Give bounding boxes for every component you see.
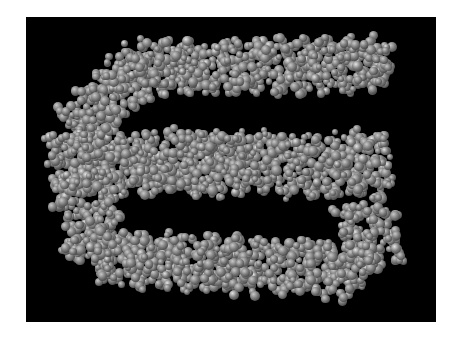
atom-sphere xyxy=(284,153,290,159)
dna-space-filling-model xyxy=(26,17,436,322)
atom-sphere xyxy=(270,277,277,284)
atom-sphere xyxy=(103,232,112,241)
atom-sphere xyxy=(69,183,77,191)
atom-sphere xyxy=(140,190,150,200)
atom-sphere xyxy=(390,211,400,221)
atom-sphere xyxy=(354,76,362,84)
atom-sphere xyxy=(85,216,95,226)
atom-sphere xyxy=(221,169,227,175)
atom-sphere xyxy=(236,77,245,86)
atom-sphere xyxy=(324,136,333,145)
atom-sphere xyxy=(363,207,371,215)
atom-sphere xyxy=(92,73,100,81)
atom-sphere xyxy=(75,245,85,255)
atom-sphere xyxy=(186,90,194,98)
atom-sphere xyxy=(354,162,363,171)
atom-sphere xyxy=(357,261,363,267)
atom-sphere xyxy=(60,181,68,189)
atom-sphere xyxy=(91,92,101,102)
atom-sphere xyxy=(151,187,159,195)
atom-sphere xyxy=(363,141,373,151)
atom-sphere xyxy=(70,236,79,245)
atom-sphere xyxy=(148,244,155,251)
atom-sphere xyxy=(139,236,149,246)
atom-sphere xyxy=(129,102,137,110)
atom-sphere xyxy=(324,277,333,286)
atom-sphere xyxy=(257,281,264,288)
atom-sphere xyxy=(339,87,346,94)
atom-sphere xyxy=(191,177,198,184)
atom-sphere xyxy=(234,183,240,189)
atom-sphere xyxy=(340,39,348,47)
atom-sphere xyxy=(364,256,373,265)
atom-sphere xyxy=(369,67,377,75)
atom-sphere xyxy=(230,169,238,177)
atom-sphere xyxy=(289,163,296,170)
atom-sphere xyxy=(84,202,91,209)
atom-sphere xyxy=(139,97,147,105)
atom-sphere xyxy=(218,157,225,164)
atom-sphere xyxy=(270,70,278,78)
atom-sphere xyxy=(111,219,118,226)
atom-sphere xyxy=(173,267,182,276)
atom-sphere xyxy=(285,141,292,148)
atom-sphere xyxy=(337,64,345,72)
atom-sphere xyxy=(212,71,220,79)
atom-sphere xyxy=(384,64,391,71)
atom-sphere xyxy=(141,254,148,261)
atom-sphere xyxy=(177,87,184,94)
atom-sphere xyxy=(255,132,263,140)
atom-sphere xyxy=(161,90,169,98)
atom-sphere xyxy=(334,161,341,168)
atom-sphere xyxy=(121,40,128,47)
atom-sphere xyxy=(230,48,237,55)
atom-sphere xyxy=(293,39,303,49)
atom-sphere xyxy=(256,260,263,267)
atom-sphere xyxy=(225,273,232,280)
atom-sphere xyxy=(306,259,315,268)
atom-sphere xyxy=(287,259,294,266)
atom-sphere xyxy=(263,176,271,184)
atom-sphere xyxy=(261,45,271,55)
atom-sphere xyxy=(327,252,337,262)
atom-sphere xyxy=(181,233,189,241)
atom-sphere xyxy=(98,271,107,280)
atom-sphere xyxy=(139,286,146,293)
atom-sphere xyxy=(164,284,171,291)
atom-sphere xyxy=(86,173,92,179)
atom-sphere xyxy=(257,187,264,194)
atom-sphere xyxy=(126,258,136,268)
atom-sphere xyxy=(339,228,348,237)
atom-sphere xyxy=(338,76,344,82)
atom-sphere xyxy=(353,185,362,194)
atom-sphere xyxy=(184,289,190,295)
atom-sphere xyxy=(327,82,333,88)
atom-sphere xyxy=(271,165,281,175)
atom-sphere xyxy=(200,274,209,283)
atom-sphere xyxy=(281,44,290,53)
atom-sphere xyxy=(386,182,393,189)
atom-sphere xyxy=(120,158,129,167)
atom-sphere xyxy=(75,221,83,229)
atom-sphere xyxy=(345,284,354,293)
atom-sphere xyxy=(130,236,139,245)
atom-sphere xyxy=(360,40,369,49)
atom-sphere xyxy=(311,287,320,296)
atom-sphere xyxy=(190,275,200,285)
atom-sphere xyxy=(352,61,362,71)
atom-sphere xyxy=(348,178,356,186)
atom-sphere xyxy=(313,178,322,187)
atom-sphere xyxy=(296,264,304,272)
atom-sphere xyxy=(314,38,323,47)
atom-sphere xyxy=(94,149,103,158)
atom-sphere xyxy=(263,185,270,192)
atom-sphere xyxy=(192,193,200,201)
atom-sphere xyxy=(102,177,109,184)
atom-sphere xyxy=(381,147,389,155)
atom-sphere xyxy=(97,216,104,223)
atom-sphere xyxy=(242,175,249,182)
atom-sphere xyxy=(120,139,127,146)
atom-sphere xyxy=(182,258,190,266)
atom-sphere xyxy=(332,171,341,180)
atom-sphere xyxy=(218,194,225,201)
